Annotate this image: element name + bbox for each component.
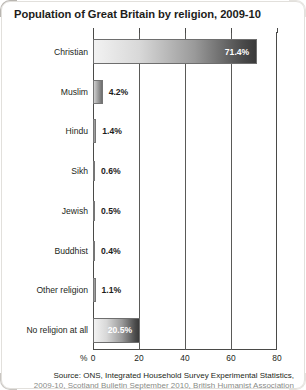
bar-row: No religion at all20.5%	[93, 310, 277, 350]
category-label: Hindu	[66, 126, 88, 136]
bar-no-religion-at-all: No religion at all20.5%	[93, 318, 140, 343]
bar-value-label: 71.4%	[225, 47, 249, 57]
bar-value-label: 1.1%	[102, 285, 122, 295]
plot-area: Christian71.4%Muslim4.2%Hindu1.4%Sikh0.6…	[93, 32, 277, 350]
source-note: Source: ONS, Integrated Household Survey…	[16, 371, 294, 390]
bar-hindu: Hindu1.4%	[93, 119, 96, 143]
bar-row: Buddhist0.4%	[93, 231, 277, 271]
bar-value-label: 0.4%	[101, 246, 121, 256]
bar-muslim: Muslim4.2%	[93, 80, 103, 104]
bar-buddhist: Buddhist0.4%	[93, 241, 95, 261]
bar-row: Jewish0.5%	[93, 191, 277, 231]
bar-sikh: Sikh0.6%	[93, 161, 95, 181]
card-corner-bottom-left	[0, 373, 17, 390]
bar-other-religion: Other religion1.1%	[93, 278, 96, 302]
source-line-1: Source: ONS, Integrated Household Survey…	[53, 371, 294, 380]
tick-top-80	[277, 28, 278, 33]
category-label: No religion at all	[26, 325, 88, 335]
x-tick-label-20: 20	[134, 353, 143, 363]
source-line-2: 2009-10, Scotland Bulletin September 201…	[16, 381, 294, 390]
category-label: Muslim	[61, 87, 88, 97]
bar-christian: Christian71.4%	[93, 39, 257, 64]
bar-value-label: 20.5%	[108, 325, 132, 335]
bar-jewish: Jewish0.5%	[93, 201, 95, 221]
category-label: Christian	[54, 47, 88, 57]
bar-row: Christian71.4%	[93, 32, 277, 72]
bar-row: Sikh0.6%	[93, 151, 277, 191]
bar-row: Hindu1.4%	[93, 112, 277, 152]
bar-value-label: 0.6%	[101, 166, 121, 176]
x-tick-label-80: 80	[272, 353, 281, 363]
bar-row: Muslim4.2%	[93, 72, 277, 112]
bar-value-label: 0.5%	[101, 206, 121, 216]
x-axis-tick-labels: 020406080	[93, 353, 277, 365]
category-label: Sikh	[71, 166, 88, 176]
bar-value-label: 4.2%	[109, 87, 129, 97]
chart-card: Population of Great Britain by religion,…	[0, 0, 306, 390]
category-label: Buddhist	[55, 246, 88, 256]
category-label: Other religion	[36, 285, 88, 295]
x-tick-label-0: 0	[91, 353, 96, 363]
bar-value-label: 1.4%	[102, 126, 122, 136]
x-axis-unit-label: %	[80, 353, 87, 363]
chart-title: Population of Great Britain by religion,…	[14, 7, 294, 21]
x-tick-label-40: 40	[180, 353, 189, 363]
bar-rows: Christian71.4%Muslim4.2%Hindu1.4%Sikh0.6…	[93, 32, 277, 350]
category-label: Jewish	[62, 206, 88, 216]
bar-row: Other religion1.1%	[93, 271, 277, 311]
x-tick-label-60: 60	[226, 353, 235, 363]
